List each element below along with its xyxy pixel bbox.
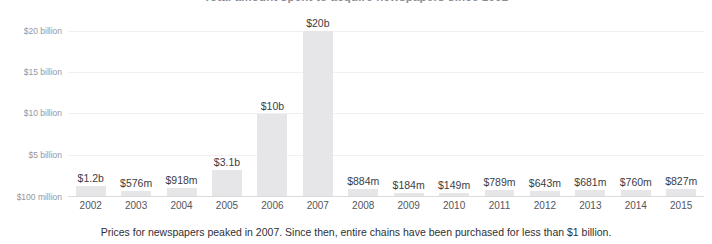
bar-rect[interactable] bbox=[257, 114, 287, 197]
bar-value-label: $3.1b bbox=[214, 156, 240, 168]
x-axis-tick: 2007 bbox=[295, 200, 340, 211]
x-axis-tick: 2010 bbox=[431, 200, 476, 211]
bar-slot[interactable]: $1.2b bbox=[68, 14, 113, 196]
y-axis-tick: $5 billion bbox=[0, 150, 62, 160]
bar-value-label: $884m bbox=[347, 175, 379, 187]
bar-slot[interactable]: $576m bbox=[113, 14, 158, 196]
y-axis-tick: $15 billion bbox=[0, 67, 62, 77]
x-axis-tick: 2014 bbox=[613, 200, 658, 211]
bar-slot[interactable]: $3.1b bbox=[204, 14, 249, 196]
bar-rect[interactable] bbox=[303, 31, 333, 196]
bar-value-label: $149m bbox=[438, 179, 470, 191]
bar-rect[interactable] bbox=[76, 186, 106, 196]
x-axis-tick: 2008 bbox=[341, 200, 386, 211]
bar-slot[interactable]: $827m bbox=[658, 14, 703, 196]
bar-rect[interactable] bbox=[530, 191, 560, 196]
x-axis-tick: 2013 bbox=[568, 200, 613, 211]
bar-value-label: $827m bbox=[665, 175, 697, 187]
bar-slot[interactable]: $643m bbox=[522, 14, 567, 196]
bar-series: $1.2b$576m$918m$3.1b$10b$20b$884m$184m$1… bbox=[68, 14, 704, 196]
x-axis-tick: 2004 bbox=[159, 200, 204, 211]
x-axis: 2002200320042005200620072008200920102011… bbox=[68, 200, 704, 211]
x-axis-tick: 2009 bbox=[386, 200, 431, 211]
bar-slot[interactable]: $789m bbox=[477, 14, 522, 196]
bar-slot[interactable]: $10b bbox=[250, 14, 295, 196]
chart-figure: Total amount spent to acquire newspapers… bbox=[0, 0, 712, 244]
bar-value-label: $576m bbox=[120, 177, 152, 189]
bar-rect[interactable] bbox=[575, 190, 605, 196]
bar-rect[interactable] bbox=[167, 188, 197, 196]
bar-rect[interactable] bbox=[485, 190, 515, 197]
bar-value-label: $681m bbox=[574, 176, 606, 188]
bar-rect[interactable] bbox=[666, 189, 696, 196]
bar-value-label: $184m bbox=[393, 179, 425, 191]
bar-rect[interactable] bbox=[439, 193, 469, 196]
chart-caption: Prices for newspapers peaked in 2007. Si… bbox=[0, 226, 712, 238]
bar-slot[interactable]: $681m bbox=[568, 14, 613, 196]
x-axis-tick: 2003 bbox=[113, 200, 158, 211]
y-axis-tick: $10 billion bbox=[0, 108, 62, 118]
bar-slot[interactable]: $884m bbox=[341, 14, 386, 196]
x-axis-tick: 2002 bbox=[68, 200, 113, 211]
bar-value-label: $20b bbox=[306, 17, 329, 29]
bar-slot[interactable]: $760m bbox=[613, 14, 658, 196]
bar-value-label: $1.2b bbox=[78, 172, 104, 184]
x-axis-tick: 2012 bbox=[522, 200, 567, 211]
bar-rect[interactable] bbox=[121, 191, 151, 196]
bar-rect[interactable] bbox=[348, 189, 378, 196]
y-axis-tick: $20 billion bbox=[0, 26, 62, 36]
bar-value-label: $643m bbox=[529, 177, 561, 189]
bar-rect[interactable] bbox=[394, 193, 424, 196]
x-axis-tick: 2005 bbox=[204, 200, 249, 211]
bar-slot[interactable]: $184m bbox=[386, 14, 431, 196]
bar-rect[interactable] bbox=[212, 170, 242, 196]
x-axis-tick: 2011 bbox=[477, 200, 522, 211]
bar-value-label: $918m bbox=[165, 174, 197, 186]
x-axis-tick: 2015 bbox=[658, 200, 703, 211]
y-axis-tick: $100 million bbox=[0, 192, 62, 202]
bar-slot[interactable]: $918m bbox=[159, 14, 204, 196]
bar-rect[interactable] bbox=[621, 190, 651, 196]
x-axis-baseline bbox=[68, 196, 704, 197]
bar-value-label: $10b bbox=[261, 100, 284, 112]
x-axis-tick: 2006 bbox=[250, 200, 295, 211]
bar-slot[interactable]: $149m bbox=[431, 14, 476, 196]
bar-value-label: $789m bbox=[483, 176, 515, 188]
chart-title: Total amount spent to acquire newspapers… bbox=[0, 0, 712, 3]
y-axis: $20 billion $15 billion $10 billion $5 b… bbox=[0, 14, 68, 197]
bar-slot[interactable]: $20b bbox=[295, 14, 340, 196]
bar-value-label: $760m bbox=[620, 176, 652, 188]
plot-area: $1.2b$576m$918m$3.1b$10b$20b$884m$184m$1… bbox=[68, 14, 704, 197]
